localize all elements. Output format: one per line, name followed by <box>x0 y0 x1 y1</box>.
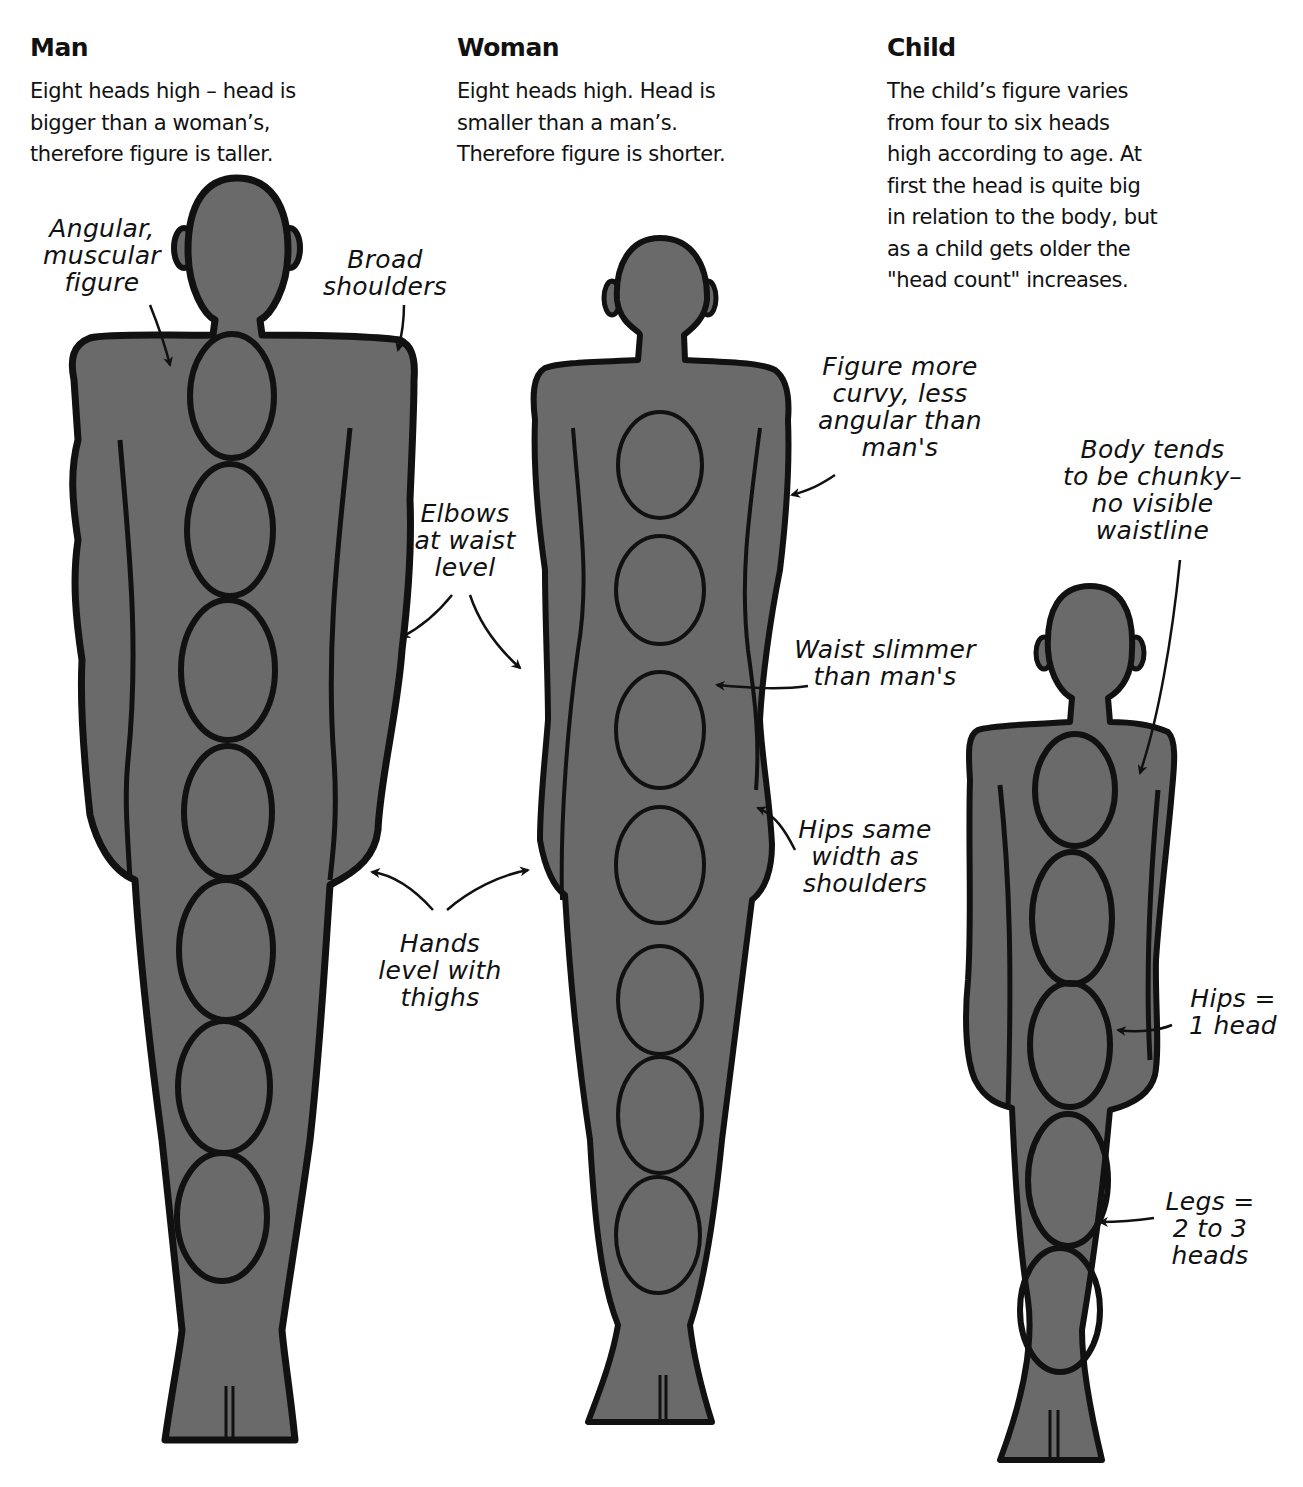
annotation-figure-curvy: Figure more curvy, less angular than man… <box>800 353 1000 461</box>
child-heading: Child <box>887 33 956 62</box>
annotation-hands-thighs: Hands level with thighs <box>365 930 515 1011</box>
annotation-broad-shoulders: Broad shoulders <box>305 246 465 300</box>
annotation-body-chunky: Body tends to be chunky– no visible wais… <box>1045 436 1260 544</box>
man-description: Eight heads high – head is bigger than a… <box>30 76 296 171</box>
man-figure <box>72 178 414 1440</box>
child-description: The child’s figure varies from four to s… <box>887 76 1157 297</box>
annotation-hips-same-width: Hips same width as shoulders <box>780 816 950 897</box>
woman-heading: Woman <box>457 33 559 62</box>
woman-figure <box>534 238 789 1422</box>
annotation-angular-muscular: Angular, muscular figure <box>22 215 182 296</box>
man-heading: Man <box>30 33 88 62</box>
annotation-waist-slimmer: Waist slimmer than man's <box>780 636 990 690</box>
annotation-elbows-waist: Elbows at waist level <box>395 500 535 581</box>
woman-description: Eight heads high. Head is smaller than a… <box>457 76 725 171</box>
child-figure <box>966 586 1174 1460</box>
annotation-legs-heads: Legs = 2 to 3 heads <box>1150 1188 1270 1269</box>
annotation-hips-one-head: Hips = 1 head <box>1178 985 1288 1039</box>
